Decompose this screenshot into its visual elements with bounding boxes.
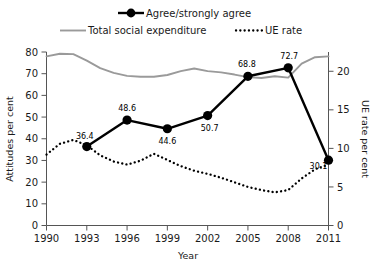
legend-label-ue-rate: UE rate	[265, 25, 302, 36]
right-tick-label: 5	[337, 182, 343, 193]
legend-item-total-social-expenditure: Total social expenditure	[60, 25, 206, 36]
legend-label-agree: Agree/strongly agree	[146, 8, 251, 19]
x-tick-label: 1996	[114, 233, 139, 244]
right-axis-ticks: 05101520	[329, 66, 350, 231]
legend-label-expenditure: Total social expenditure	[87, 25, 206, 36]
data-point-marker	[82, 142, 91, 151]
x-tick-label: 2011	[316, 233, 341, 244]
data-point-label: 44.6	[158, 137, 176, 146]
left-tick-label: 30	[25, 155, 38, 166]
data-point-label: 36.4	[76, 132, 94, 141]
right-tick-label: 20	[337, 66, 350, 77]
dual-axis-line-chart: Agree/strongly agree Total social expend…	[0, 0, 371, 267]
data-point-label: 68.8	[238, 60, 256, 69]
right-tick-label: 15	[337, 104, 350, 115]
left-tick-label: 60	[25, 90, 38, 101]
left-tick-label: 50	[25, 112, 38, 123]
data-point-marker	[243, 72, 252, 81]
left-tick-label: 40	[25, 133, 38, 144]
data-point-label: 30.1	[310, 162, 328, 171]
y2-axis-title: UE rate per cent	[360, 100, 371, 178]
data-point-label: 72.7	[280, 52, 298, 61]
data-point-marker	[284, 63, 293, 72]
y-axis-title: Attitudes per cent	[4, 96, 15, 182]
x-axis-ticks: 19901993199619992002200520082011	[34, 226, 341, 245]
x-tick-label: 1993	[74, 233, 99, 244]
x-tick-label: 2005	[235, 233, 260, 244]
right-tick-label: 0	[337, 220, 343, 231]
data-point-marker	[122, 115, 131, 124]
data-point-label: 50.7	[201, 124, 219, 133]
data-point-marker	[203, 111, 212, 120]
left-tick-label: 20	[25, 177, 38, 188]
left-tick-label: 10	[25, 198, 38, 209]
series-markers-agree	[82, 63, 333, 165]
left-axis-ticks: 01020304050607080	[25, 47, 46, 232]
legend-marker-agree	[127, 9, 136, 18]
left-tick-label: 70	[25, 68, 38, 79]
x-axis-title: Year	[177, 250, 198, 261]
x-tick-label: 2002	[195, 233, 220, 244]
left-tick-label: 80	[25, 47, 38, 58]
data-point-marker	[163, 124, 172, 133]
chart-legend: Agree/strongly agree Total social expend…	[60, 8, 302, 37]
right-tick-label: 10	[337, 143, 350, 154]
legend-item-ue-rate: UE rate	[236, 25, 302, 36]
x-tick-label: 2008	[275, 233, 300, 244]
x-tick-label: 1999	[155, 233, 180, 244]
x-tick-label: 1990	[34, 233, 59, 244]
data-point-label: 48.6	[118, 104, 136, 113]
chart-figure: Agree/strongly agree Total social expend…	[0, 0, 371, 267]
left-tick-label: 0	[32, 220, 38, 231]
legend-item-agree-strongly-agree: Agree/strongly agree	[118, 8, 251, 19]
